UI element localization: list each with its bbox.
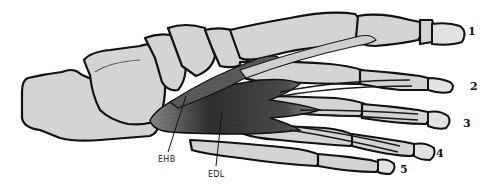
foot-illustration (0, 0, 494, 193)
ehb-label: EHB (158, 155, 175, 164)
edl-label: EDL (208, 170, 225, 179)
toe-number-1: 1 (468, 25, 476, 38)
toe-number-4: 4 (436, 147, 444, 160)
toe-number-5: 5 (400, 163, 408, 176)
toe-3-phalanges (362, 104, 450, 129)
toe-number-3: 3 (463, 117, 471, 130)
toe-5-phalanges (318, 154, 395, 174)
metatarsal-5 (190, 140, 322, 166)
toe-number-2: 2 (470, 80, 478, 93)
